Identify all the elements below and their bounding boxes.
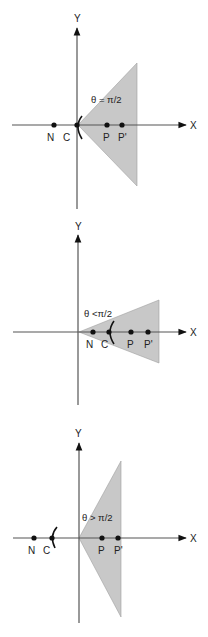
point-c [106,329,111,334]
point-c [49,535,54,540]
x-axis-label: X [190,120,197,131]
point-p-prime [115,535,120,540]
angle-label: θ > π/2 [82,512,113,523]
y-axis-label: Y [75,221,82,232]
point-p-prime-label: P' [144,339,153,350]
point-p-prime-label: P' [114,545,123,556]
x-axis-label: X [190,533,197,544]
point-p [128,329,133,334]
point-c [74,122,79,127]
point-p-prime [145,329,150,334]
point-p-prime-label: P' [118,132,127,143]
point-c-label: C [43,545,50,556]
point-p [99,535,104,540]
point-c-label: C [63,132,70,143]
angle-label: θ = π/2 [91,94,122,105]
point-n [90,329,95,334]
diagram-canvas: X Y θ = π/2 N C P P' X Y θ <π/2 N C P P'… [0,0,208,637]
point-p-label: P [98,545,105,556]
x-axis-label: X [190,327,197,338]
y-axis-label: Y [74,13,81,24]
angle-label: θ <π/2 [84,308,112,319]
point-p-label: P [127,339,134,350]
panel-theta-equal: X Y θ = π/2 N C P P' [12,13,197,209]
point-n [51,122,56,127]
y-axis-label: Y [75,428,82,439]
panel-theta-less: X Y θ <π/2 N C P P' [13,221,197,405]
point-c-label: C [101,339,108,350]
point-n-label: N [28,545,35,556]
point-n-label: N [47,132,54,143]
point-p [104,122,109,127]
point-p-label: P [103,132,110,143]
point-p-prime [119,122,124,127]
panel-theta-greater: X Y θ > π/2 N C P P' [13,428,197,623]
point-n-label: N [86,339,93,350]
point-n [31,535,36,540]
